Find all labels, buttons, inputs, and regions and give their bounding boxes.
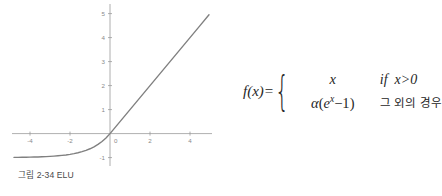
y-axis-tick-labels: -112345 <box>99 10 105 161</box>
formula-case-2-expression: α(ex−1) <box>294 93 372 112</box>
formula-brace: { <box>275 73 289 110</box>
formula-row: f(x)= { x if x>0 α(ex−1) 그 외의 경우 <box>243 60 438 122</box>
x-tick-label: 0 <box>114 137 118 144</box>
formula-equals-sign: = <box>264 83 274 99</box>
figure-caption: 그림 2-34 ELU <box>18 168 74 180</box>
formula-minus-one: −1 <box>334 94 349 110</box>
formula-case-2-condition: 그 외의 경우 <box>372 94 442 110</box>
elu-chart: -4-2024 -112345 <box>12 4 212 166</box>
x-tick-label: -4 <box>27 137 33 144</box>
y-tick-label: 4 <box>102 34 106 41</box>
formula-fx: f(x) <box>243 83 264 99</box>
formula-case-1-condition: if x>0 <box>372 72 417 88</box>
y-tick-label: -1 <box>99 154 105 161</box>
formula-if-keyword: if <box>380 72 388 87</box>
y-tick-label: 5 <box>102 10 106 17</box>
elu-figure: -4-2024 -112345 그림 2-34 ELU <box>0 0 219 196</box>
x-tick-label: 2 <box>148 137 152 144</box>
y-tick-label: 2 <box>102 82 106 89</box>
formula-case-2: α(ex−1) 그 외의 경우 <box>294 93 442 112</box>
formula-left-hand-side: f(x)= <box>243 83 275 100</box>
formula-alpha-symbol: α <box>311 94 319 110</box>
x-tick-label: -2 <box>67 137 73 144</box>
formula-condition-x-gt-0: x>0 <box>395 72 418 87</box>
elu-chart-svg: -4-2024 -112345 <box>12 4 212 166</box>
formula-cases: x if x>0 α(ex−1) 그 외의 경우 <box>292 71 442 112</box>
elu-formula: f(x)= { x if x>0 α(ex−1) 그 외의 경우 <box>243 60 438 122</box>
elu-curve-path <box>14 15 209 158</box>
formula-close-paren: ) <box>350 94 355 110</box>
x-tick-label: 4 <box>188 137 192 144</box>
formula-case-1: x if x>0 <box>294 71 442 88</box>
y-tick-label: 1 <box>102 106 106 113</box>
y-tick-label: 3 <box>102 58 106 65</box>
formula-case-1-expression: x <box>294 71 372 88</box>
